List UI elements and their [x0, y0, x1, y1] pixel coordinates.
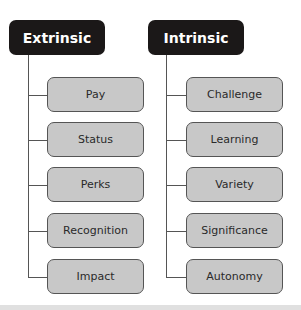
- connector: [166, 277, 186, 278]
- connector: [28, 140, 47, 141]
- extrinsic-item-impact: Impact: [47, 259, 144, 294]
- connector: [166, 140, 186, 141]
- intrinsic-connector-line: [166, 55, 167, 277]
- connector: [28, 277, 47, 278]
- bottom-divider: [0, 305, 301, 310]
- extrinsic-item-status: Status: [47, 122, 144, 157]
- extrinsic-item-recognition: Recognition: [47, 213, 144, 248]
- extrinsic-connector-line: [28, 55, 29, 277]
- extrinsic-header: Extrinsic: [9, 20, 105, 55]
- intrinsic-item-autonomy: Autonomy: [186, 259, 283, 294]
- intrinsic-item-variety: Variety: [186, 167, 283, 202]
- intrinsic-header: Intrinsic: [148, 20, 244, 55]
- connector: [166, 185, 186, 186]
- extrinsic-item-perks: Perks: [47, 167, 144, 202]
- intrinsic-item-learning: Learning: [186, 122, 283, 157]
- connector: [28, 95, 47, 96]
- connector: [166, 231, 186, 232]
- intrinsic-item-significance: Significance: [186, 213, 283, 248]
- extrinsic-item-pay: Pay: [47, 77, 144, 112]
- connector: [28, 231, 47, 232]
- intrinsic-item-challenge: Challenge: [186, 77, 283, 112]
- connector: [28, 185, 47, 186]
- connector: [166, 95, 186, 96]
